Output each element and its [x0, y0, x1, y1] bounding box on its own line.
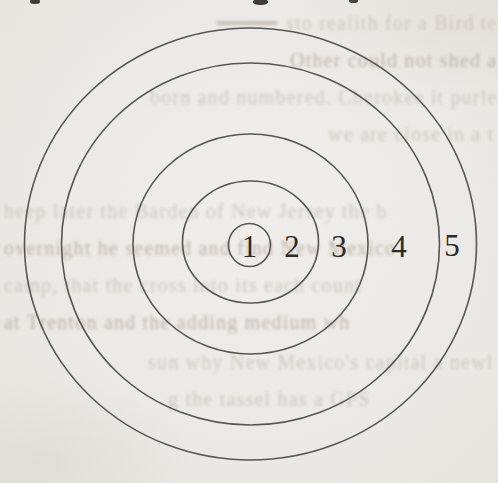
- ring-number-3: 3: [331, 229, 347, 264]
- ring-number-5: 5: [444, 228, 460, 263]
- ring-number-1: 1: [242, 229, 258, 264]
- scanned-book-page: sto realith for a Bird temp. When Other …: [0, 0, 498, 483]
- ring-number-4: 4: [391, 229, 407, 264]
- ring-number-2: 2: [284, 229, 300, 264]
- concentric-circles-diagram: 1 2 3 4 5: [0, 0, 498, 483]
